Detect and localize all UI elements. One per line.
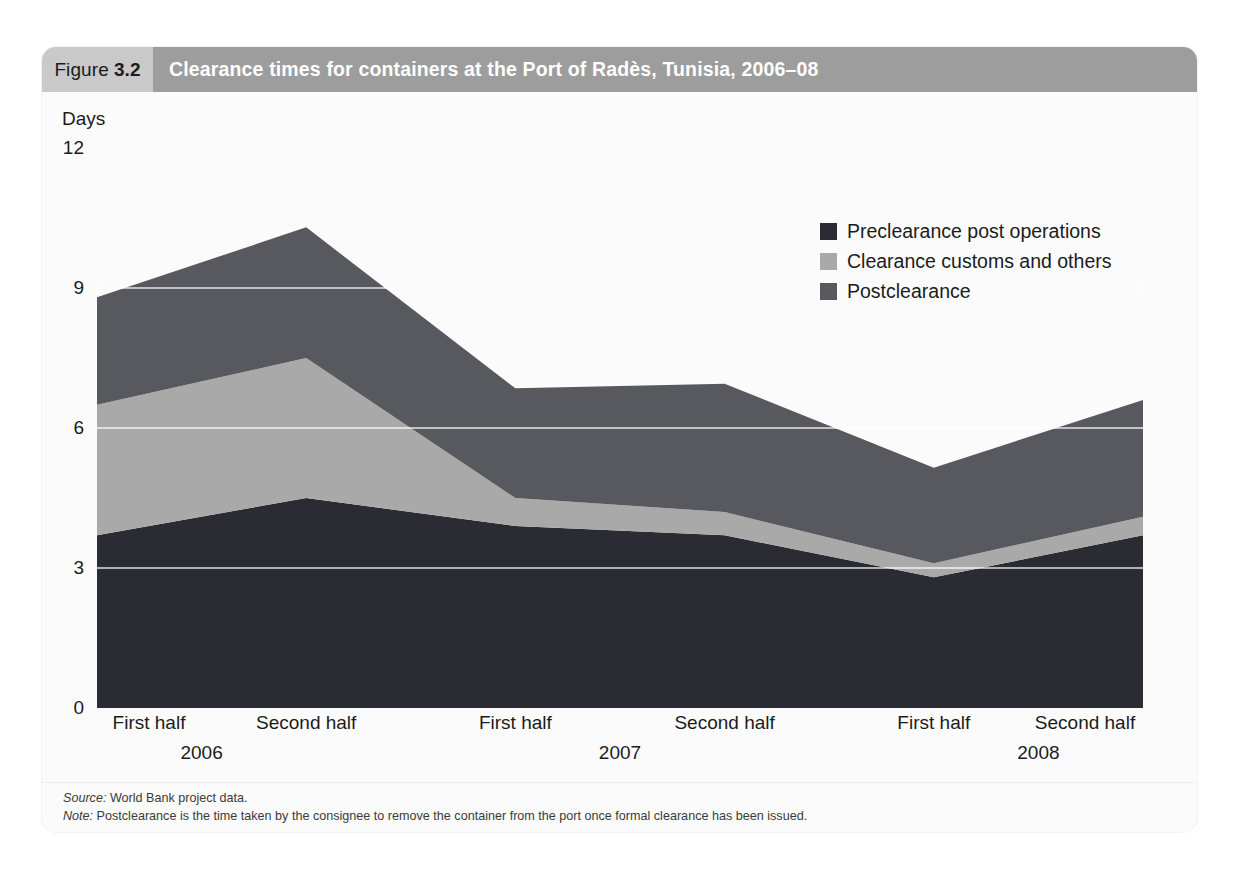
y-axis-unit-label: Days bbox=[62, 108, 105, 130]
legend-item-postclearance: Postclearance bbox=[820, 280, 1111, 303]
figure-card: Figure 3.2 Clearance times for container… bbox=[42, 47, 1197, 832]
y-tick-3: 3 bbox=[73, 557, 84, 579]
source-text: World Bank project data. bbox=[110, 791, 248, 805]
legend-swatch-postclearance bbox=[820, 283, 837, 300]
x-tick-half-3: Second half bbox=[674, 712, 774, 734]
chart-legend: Preclearance post operations Clearance c… bbox=[820, 220, 1111, 310]
note-line: Note: Postclearance is the time taken by… bbox=[63, 807, 1173, 825]
figure-number: 3.2 bbox=[114, 59, 141, 81]
legend-item-preclearance: Preclearance post operations bbox=[820, 220, 1111, 243]
figure-page: Figure 3.2 Clearance times for container… bbox=[0, 0, 1238, 882]
note-text: Postclearance is the time taken by the c… bbox=[97, 809, 808, 823]
legend-label-clearance: Clearance customs and others bbox=[847, 250, 1111, 273]
footer-divider bbox=[42, 782, 1197, 783]
chart-area: Days 036912 Preclearance post operations… bbox=[42, 92, 1197, 782]
y-axis-tick-labels: 036912 bbox=[42, 148, 92, 708]
source-line: Source: World Bank project data. bbox=[63, 789, 1173, 807]
x-axis-tick-labels: First halfSecond halfFirst halfSecond ha… bbox=[97, 712, 1143, 782]
legend-swatch-clearance bbox=[820, 253, 837, 270]
x-tick-year-2006: 2006 bbox=[180, 742, 222, 764]
legend-swatch-preclearance bbox=[820, 223, 837, 240]
x-tick-half-5: Second half bbox=[1035, 712, 1135, 734]
figure-footnotes: Source: World Bank project data. Note: P… bbox=[63, 789, 1173, 826]
figure-label: Figure bbox=[54, 59, 108, 81]
figure-title: Clearance times for containers at the Po… bbox=[153, 47, 1197, 92]
legend-label-postclearance: Postclearance bbox=[847, 280, 971, 303]
x-tick-year-2007: 2007 bbox=[599, 742, 641, 764]
x-tick-half-2: First half bbox=[479, 712, 552, 734]
legend-label-preclearance: Preclearance post operations bbox=[847, 220, 1101, 243]
figure-header: Figure 3.2 Clearance times for container… bbox=[42, 47, 1197, 92]
y-tick-12: 12 bbox=[63, 137, 84, 159]
x-tick-half-1: Second half bbox=[256, 712, 356, 734]
x-tick-year-2008: 2008 bbox=[1017, 742, 1059, 764]
y-tick-0: 0 bbox=[73, 697, 84, 719]
source-label: Source: bbox=[63, 791, 106, 805]
y-tick-6: 6 bbox=[73, 417, 84, 439]
x-tick-half-4: First half bbox=[897, 712, 970, 734]
legend-item-clearance: Clearance customs and others bbox=[820, 250, 1111, 273]
x-tick-half-0: First half bbox=[113, 712, 186, 734]
y-tick-9: 9 bbox=[73, 277, 84, 299]
figure-number-tag: Figure 3.2 bbox=[42, 47, 153, 92]
note-label: Note: bbox=[63, 809, 93, 823]
